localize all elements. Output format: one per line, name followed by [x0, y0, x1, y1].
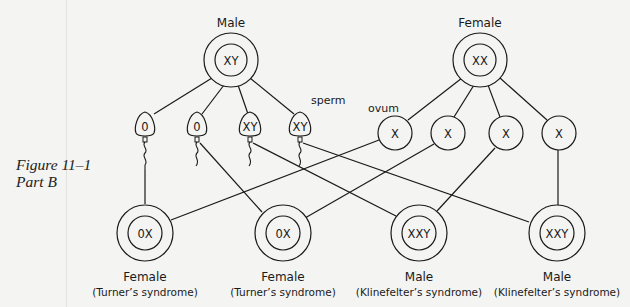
ovum-genotype: X — [444, 127, 452, 141]
female-genotype: XX — [472, 54, 488, 68]
offspring-1: 0X Female (Turner’s syndrome) — [92, 205, 198, 298]
female-parent-label: Female — [458, 16, 501, 30]
offspring-condition: (Klinefelter’s syndrome) — [494, 286, 620, 298]
male-parent-label: Male — [217, 16, 245, 30]
male-genotype: XY — [224, 54, 240, 68]
male-to-sperm-2-line — [202, 85, 224, 114]
male-to-sperm-4-line — [250, 78, 294, 114]
ovum-3-to-offspring-3-line — [437, 148, 495, 211]
male-to-sperm-1-line — [154, 78, 212, 114]
offspring-sex: Male — [405, 270, 433, 284]
ovum-label: ovum — [368, 102, 399, 115]
sperm-midpiece-icon — [298, 137, 302, 142]
sperm-3: XY — [239, 112, 260, 166]
nondisjunction-diagram: Male XY Female XX sperm 0 0 XY XY ovum — [0, 0, 630, 307]
sperm-midpiece-icon — [143, 137, 147, 142]
sperm-label: sperm — [311, 94, 346, 107]
ovum-genotype: X — [391, 127, 399, 141]
sperm-midpiece-icon — [248, 137, 252, 142]
sperm-2-to-offspring-2-line — [200, 143, 262, 212]
offspring-genotype: 0X — [275, 227, 290, 241]
offspring-sex: Female — [123, 270, 166, 284]
sperm-genotype: 0 — [193, 120, 200, 134]
offspring-genotype: XXY — [408, 227, 432, 241]
sperm-3-to-offspring-3-line — [253, 143, 396, 216]
ovum-4: X — [542, 116, 576, 150]
ovum-1: X — [378, 116, 412, 150]
sperm-tail-icon — [299, 142, 301, 166]
ovum-genotype: X — [555, 127, 563, 141]
female-to-ovum-3-line — [488, 85, 500, 117]
sperm-tail-icon — [144, 142, 146, 170]
sperm-midpiece-icon — [195, 137, 199, 142]
sperm-4: XY — [289, 112, 310, 166]
female-parent: Female XX — [453, 16, 507, 87]
sperm-1: 0 — [135, 112, 154, 170]
male-parent: Male XY — [204, 16, 258, 87]
female-to-ovum-1-line — [408, 78, 462, 120]
offspring-sex: Female — [261, 270, 304, 284]
sperm-genotype: XY — [293, 120, 309, 134]
offspring-condition: (Turner’s syndrome) — [92, 286, 198, 298]
offspring-condition: (Klinefelter’s syndrome) — [356, 286, 482, 298]
offspring-3: XXY Male (Klinefelter’s syndrome) — [356, 205, 482, 298]
female-to-ovum-2-line — [454, 85, 474, 117]
offspring-genotype: XXY — [546, 227, 570, 241]
male-to-sperm-3-line — [238, 85, 248, 114]
sperm-tail-icon — [249, 142, 251, 166]
offspring-sex: Male — [543, 270, 571, 284]
ovum-genotype: X — [502, 127, 510, 141]
sperm-tail-icon — [196, 142, 198, 166]
female-to-ovum-4-line — [500, 78, 547, 120]
sperm-genotype: 0 — [141, 120, 148, 134]
offspring-condition: (Turner’s syndrome) — [230, 286, 336, 298]
offspring-4: XXY Male (Klinefelter’s syndrome) — [494, 205, 620, 298]
sperm-genotype: XY — [243, 120, 259, 134]
ovum-3: X — [489, 116, 523, 150]
ovum-2: X — [431, 116, 465, 150]
offspring-genotype: 0X — [137, 227, 152, 241]
offspring-2: 0X Female (Turner’s syndrome) — [230, 205, 336, 298]
sperm-2: 0 — [187, 112, 206, 166]
